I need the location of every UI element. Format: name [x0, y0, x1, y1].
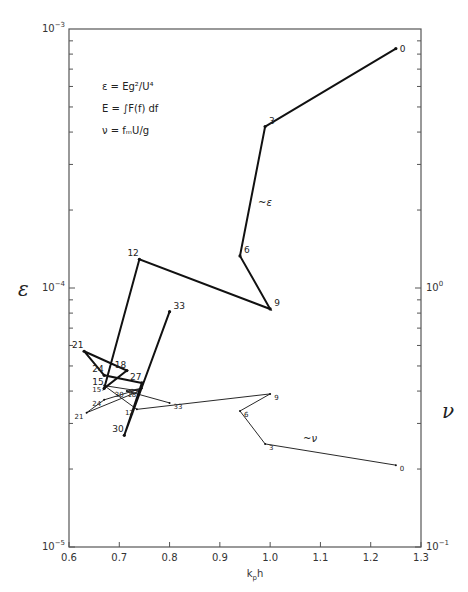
x-tick-label: 0.8: [162, 552, 178, 563]
right-axis-symbol: ν: [442, 399, 454, 423]
point-label: 6: [244, 411, 249, 419]
x-tick-label: 0.9: [212, 552, 228, 563]
equation-nu: ν = fₘU/g: [102, 125, 149, 136]
data-point: [103, 385, 105, 387]
curve-label-epsilon: ~ε: [258, 197, 272, 208]
x-axis-label: kph: [247, 568, 264, 582]
x-tick-label: 1.0: [262, 552, 278, 563]
chart-canvas: 0.60.70.80.91.01.11.21.3kph10−510−410−31…: [0, 0, 468, 592]
data-point: [168, 310, 171, 313]
y-right-tick-label: 10−1: [426, 539, 449, 552]
point-label: 27: [130, 372, 141, 382]
point-label: 0: [400, 44, 406, 54]
equation-epsilon: ε = Eg²/U⁴: [102, 81, 154, 92]
x-tick-label: 1.3: [413, 552, 429, 563]
point-label: 30: [115, 391, 124, 399]
x-tick-label: 0.7: [111, 552, 127, 563]
data-point: [395, 464, 397, 466]
y-right-tick-label: 100: [426, 280, 443, 293]
x-tick-label: 0.6: [61, 552, 77, 563]
point-label: 12: [127, 248, 138, 258]
data-point: [239, 410, 241, 412]
point-label: 33: [174, 301, 185, 311]
data-point: [86, 412, 88, 414]
point-label: 0: [400, 465, 404, 473]
data-point: [141, 387, 143, 389]
curve-label-nu: ~ν: [303, 433, 317, 444]
data-point: [169, 402, 171, 404]
y-left-tick-label: 10−5: [42, 539, 65, 552]
equation-energy: E = ∫F(f) df: [102, 103, 159, 114]
point-label: 30: [112, 424, 124, 434]
point-label: 21: [72, 340, 83, 350]
point-label: 24: [92, 364, 104, 374]
point-label: 27: [130, 388, 139, 396]
left-axis-symbol: ε: [18, 277, 29, 301]
data-point: [126, 390, 128, 392]
point-label: 33: [174, 403, 183, 411]
data-point: [264, 443, 266, 445]
data-point: [136, 408, 138, 410]
y-left-tick-label: 10−4: [42, 280, 66, 293]
point-label: 3: [269, 116, 275, 126]
point-label: 6: [244, 245, 250, 255]
point-label: 18: [115, 360, 127, 370]
data-point: [269, 307, 272, 310]
point-label: 12: [125, 409, 134, 417]
y-left-tick-label: 10−3: [42, 21, 65, 34]
point-label: 9: [274, 298, 280, 308]
point-label: 9: [274, 394, 278, 402]
data-point: [264, 125, 267, 128]
data-point: [103, 399, 105, 401]
x-tick-label: 1.1: [312, 552, 328, 563]
point-label: 24: [92, 400, 101, 408]
point-label: 15: [92, 386, 101, 394]
data-point: [394, 47, 397, 50]
point-label: 21: [75, 413, 84, 421]
x-tick-label: 1.2: [363, 552, 379, 563]
data-point: [269, 393, 271, 395]
point-label: 3: [269, 444, 273, 452]
data-point: [238, 254, 241, 257]
